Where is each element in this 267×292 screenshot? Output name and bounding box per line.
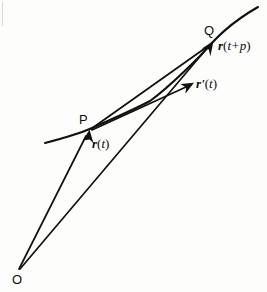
point-label-q: Q [204,24,214,37]
vector-arg-close: ) [105,136,109,151]
vector-label-r-t-plus-p: r(t+p) [218,39,251,52]
vector-symbol-r-prime: r' [196,76,205,91]
vector-arg-body: t+p [227,38,246,53]
position-vector-rtp-arrowhead [202,41,214,56]
vector-derivative-figure: Q P O r(t+p) r'(t) r(t) [0,0,267,292]
vector-arg-close: ) [246,38,250,53]
position-vector-rtp-shaft [20,47,208,269]
vector-label-r-prime-t: r'(t) [196,77,217,90]
point-label-p: P [79,113,88,126]
vector-label-r-t: r(t) [92,137,109,150]
point-label-origin: O [12,273,22,286]
vector-arg-close: ) [213,76,217,91]
secant-chord-PQ [91,44,211,129]
derivative-vector-shaft [92,87,186,130]
trajectory-curve [45,7,258,143]
